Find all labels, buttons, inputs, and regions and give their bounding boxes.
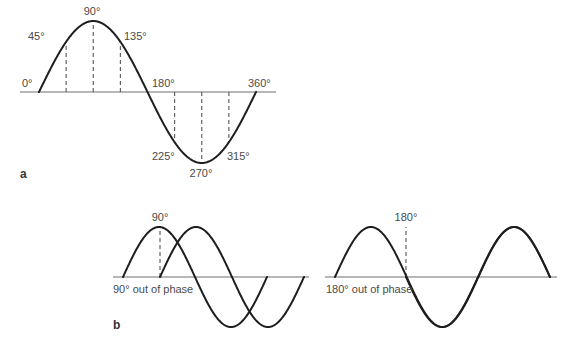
angle-label: 135° [124,30,147,42]
panel-b-right-caption: 180° out of phase [326,283,412,295]
angle-label: 90° [84,5,101,17]
panel-b-left-marker-label: 90° [152,211,169,223]
angle-label: 315° [227,150,250,162]
panel-b-90-degree: 90° 90° out of phase b [113,211,309,332]
sine-wave-phase-diagram: 0°45°90°135°180°360°225°270°315° a 90° 9… [0,0,563,346]
angle-label: 270° [190,167,213,179]
panel-b-right-marker-label: 180° [395,211,418,223]
panel-b-180-degree: 180° 180° out of phase [325,211,557,327]
angle-label: 45° [28,30,45,42]
angle-label: 0° [22,77,33,89]
angle-label: 180° [152,77,175,89]
angle-label: 225° [152,150,175,162]
panel-b-label: b [113,318,120,332]
panel-a-label: a [20,167,27,181]
angle-label: 360° [248,77,271,89]
panel-b-left-caption: 90° out of phase [113,283,193,295]
panel-a: 0°45°90°135°180°360°225°270°315° a [20,5,276,181]
